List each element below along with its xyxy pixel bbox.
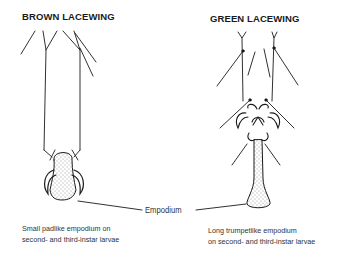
empodium-leader-line-left [78,201,142,210]
brown-lacewing-caption-line-1: Small padlike empodium on [22,223,119,234]
brown-lacewing-caption-line-2: second- and third-instar larvae [22,234,119,245]
green-lacewing-caption-line-1: Long trumpetlike empodium [208,225,315,236]
brown-lacewing-leg [21,31,96,160]
empodium-leader-line-right [196,204,246,210]
green-lacewing-claws [236,104,279,140]
green-lacewing-empodium [247,140,270,208]
empodium-label: Empodium [145,205,182,215]
green-lacewing-caption-line-2: on second- and third-instar larvae [208,236,315,247]
brown-lacewing-empodium [50,153,76,201]
brown-lacewing-caption: Small padlike empodium on second- and th… [22,223,119,245]
green-lacewing-caption: Long trumpetlike empodium on second- and… [208,225,315,247]
lacewing-leg-illustration [0,0,344,258]
